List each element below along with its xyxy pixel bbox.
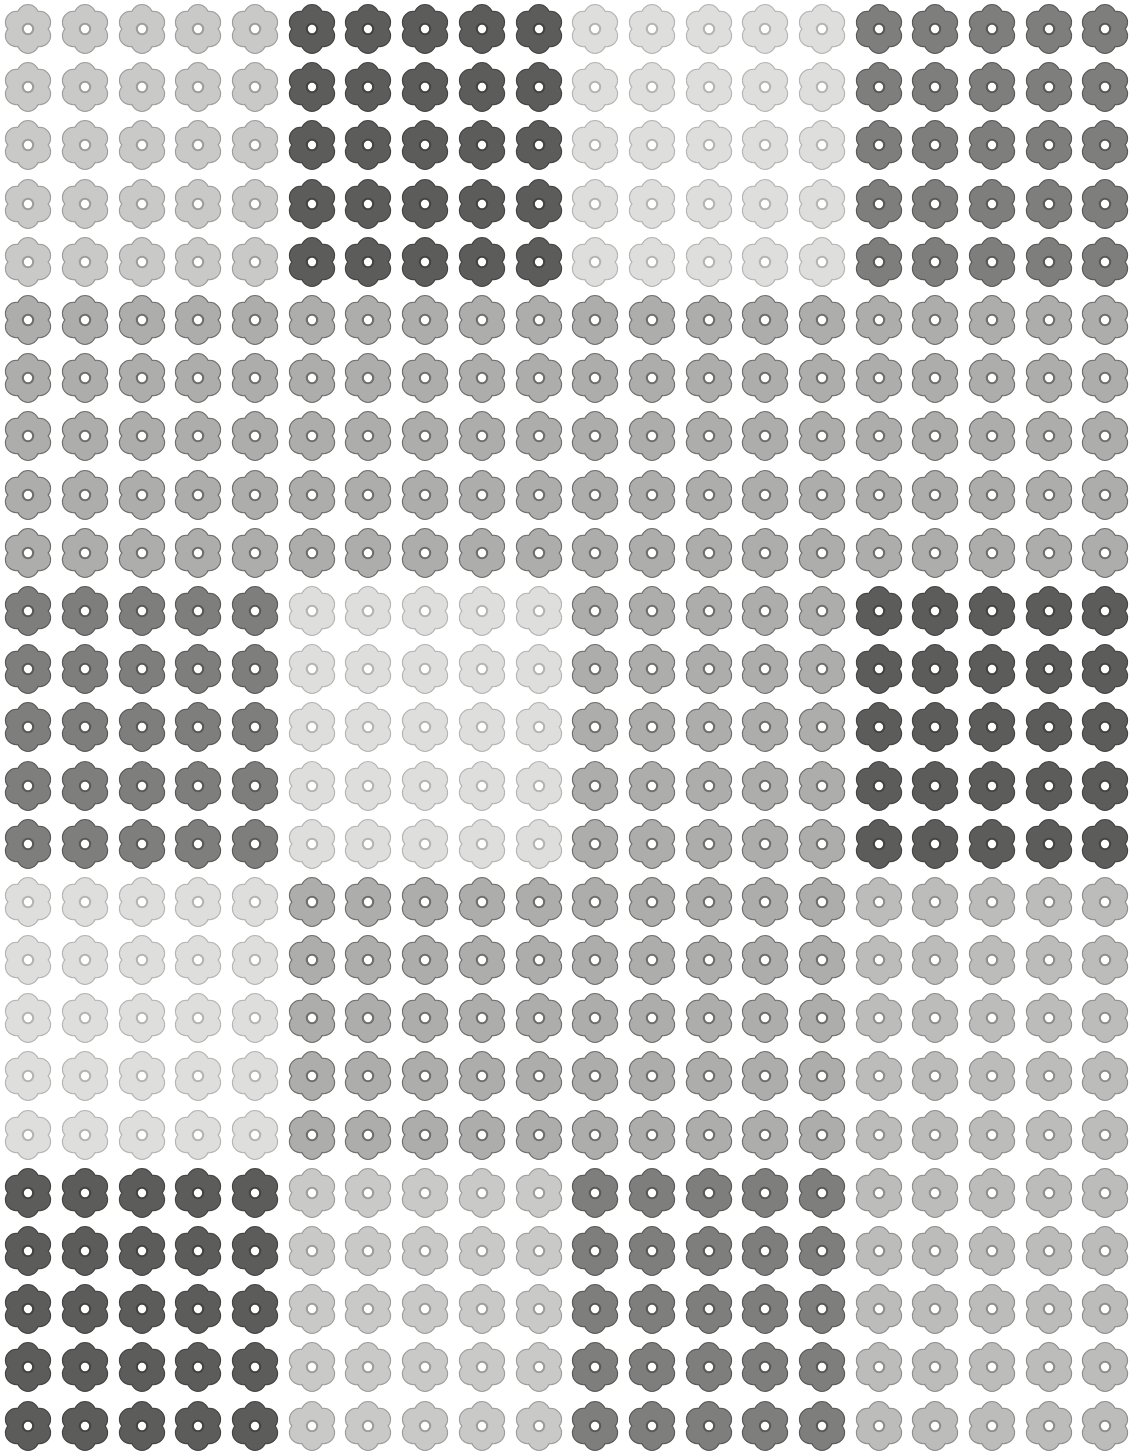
flower-center-hole [930, 1129, 940, 1139]
flower-center-hole [363, 1188, 373, 1198]
flower-center-hole [307, 1129, 317, 1139]
flower-icon [286, 701, 338, 753]
flower-center-hole [1044, 1071, 1054, 1081]
flower-center-hole [363, 82, 373, 92]
flower-cell [397, 524, 454, 582]
flower-center-hole [760, 1071, 770, 1081]
flower-cell [737, 407, 794, 465]
flower-center-hole [930, 664, 940, 674]
flower-cell [170, 407, 227, 465]
flower-center-hole [420, 1420, 430, 1430]
flower-center-hole [23, 140, 33, 150]
flower-icon [853, 992, 905, 1044]
flower-icon [286, 527, 338, 579]
flower-cell [624, 1222, 681, 1280]
flower-icon [172, 701, 224, 753]
flower-cell [57, 698, 114, 756]
flower-center-hole [817, 897, 827, 907]
flower-icon [909, 934, 961, 986]
flower-icon [569, 701, 621, 753]
flower-center-hole [873, 140, 883, 150]
flower-icon [456, 61, 508, 113]
flower-icon [853, 352, 905, 404]
flower-center-hole [193, 315, 203, 325]
flower-center-hole [250, 1420, 260, 1430]
flower-center-hole [193, 548, 203, 558]
flower-icon [172, 61, 224, 113]
flower-cell [907, 756, 964, 814]
flower-center-hole [420, 315, 430, 325]
flower-cell [794, 1164, 851, 1222]
flower-center-hole [250, 780, 260, 790]
flower-icon [229, 527, 281, 579]
flower-cell [567, 582, 624, 640]
flower-cell [907, 582, 964, 640]
flower-center-hole [817, 1071, 827, 1081]
flower-cell [850, 291, 907, 349]
flower-cell [454, 58, 511, 116]
flower-center-hole [817, 1304, 827, 1314]
flower-icon [966, 992, 1018, 1044]
flower-icon [229, 469, 281, 521]
flower-icon [456, 352, 508, 404]
flower-cell [567, 233, 624, 291]
flower-cell [850, 1164, 907, 1222]
flower-icon [342, 818, 394, 870]
flower-cell [964, 1047, 1021, 1105]
flower-center-hole [873, 664, 883, 674]
flower-center-hole [703, 548, 713, 558]
flower-center-hole [703, 140, 713, 150]
flower-cell [57, 233, 114, 291]
flower-icon [796, 1283, 848, 1335]
flower-center-hole [987, 1071, 997, 1081]
flower-center-hole [250, 664, 260, 674]
flower-icon [909, 1400, 961, 1452]
flower-center-hole [363, 1246, 373, 1256]
flower-center-hole [250, 1013, 260, 1023]
flower-icon [626, 61, 678, 113]
flower-center-hole [703, 1420, 713, 1430]
flower-cell [0, 1047, 57, 1105]
flower-cell [340, 1047, 397, 1105]
flower-center-hole [1044, 548, 1054, 558]
flower-center-hole [193, 1188, 203, 1198]
flower-cell [113, 1280, 170, 1338]
flower-cell [1077, 640, 1134, 698]
flower-center-hole [873, 780, 883, 790]
flower-center-hole [1100, 897, 1110, 907]
flower-icon [626, 992, 678, 1044]
flower-icon [909, 469, 961, 521]
flower-icon [172, 760, 224, 812]
flower-icon [513, 643, 565, 695]
flower-icon [456, 992, 508, 1044]
flower-cell [340, 640, 397, 698]
flower-center-hole [420, 24, 430, 34]
flower-icon [342, 61, 394, 113]
flower-cell [1020, 349, 1077, 407]
flower-icon [796, 818, 848, 870]
flower-center-hole [647, 722, 657, 732]
flower-center-hole [1044, 606, 1054, 616]
flower-cell [283, 1164, 340, 1222]
flower-icon [2, 992, 54, 1044]
flower-cell [680, 1280, 737, 1338]
flower-cell [794, 233, 851, 291]
flower-cell [454, 1222, 511, 1280]
flower-cell [737, 873, 794, 931]
flower-center-hole [250, 489, 260, 499]
flower-cell [340, 931, 397, 989]
flower-cell [397, 873, 454, 931]
flower-icon [116, 992, 168, 1044]
flower-cell [964, 1397, 1021, 1455]
flower-icon [116, 1283, 168, 1335]
flower-icon [342, 294, 394, 346]
flower-cell [113, 1397, 170, 1455]
flower-cell [964, 466, 1021, 524]
flower-center-hole [647, 780, 657, 790]
flower-cell [283, 175, 340, 233]
flower-cell [624, 116, 681, 174]
flower-center-hole [23, 1362, 33, 1372]
flower-center-hole [647, 955, 657, 965]
flower-cell [454, 407, 511, 465]
flower-cell [57, 175, 114, 233]
